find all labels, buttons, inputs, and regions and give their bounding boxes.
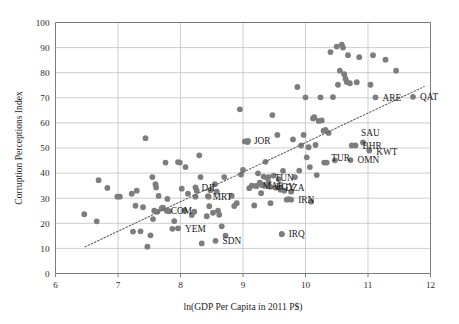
country-code-label: IRQ xyxy=(289,229,305,239)
scatter-point xyxy=(179,186,185,192)
scatter-point-labeled xyxy=(279,231,285,237)
scatter-point-labeled xyxy=(410,94,416,100)
x-tick-label: 12 xyxy=(426,280,436,290)
scatter-point xyxy=(368,82,374,88)
y-tick-label: 10 xyxy=(40,244,50,254)
trend-line-path xyxy=(85,87,424,247)
scatter-point xyxy=(210,210,216,216)
scatter-point xyxy=(133,203,139,209)
scatter-point xyxy=(81,211,87,217)
scatter-point xyxy=(318,94,324,100)
country-code-label: IRN xyxy=(298,195,314,205)
scatter-point xyxy=(251,203,257,209)
country-code-label: KWT xyxy=(376,147,397,157)
scatter-point xyxy=(269,112,275,118)
scatter-point xyxy=(314,172,320,178)
scatter-point xyxy=(185,191,191,197)
scatter-point xyxy=(274,132,280,138)
x-tick-label: 10 xyxy=(301,280,311,290)
scatter-point xyxy=(290,137,296,143)
scatter-point-labeled xyxy=(288,197,294,203)
scatter-plot-figure: 0102030405060708090100 6789101112 QATARE… xyxy=(0,0,459,324)
y-tick-label: 0 xyxy=(45,269,50,279)
scatter-point-labeled xyxy=(266,174,272,180)
x-tick-label: 7 xyxy=(116,280,121,290)
scatter-point xyxy=(206,203,212,209)
x-tick-label: 6 xyxy=(53,280,58,290)
scatter-point xyxy=(340,45,346,51)
y-tick-label: 40 xyxy=(40,168,50,178)
scatter-point xyxy=(296,168,302,174)
scatter-point xyxy=(335,82,341,88)
scatter-point xyxy=(191,209,197,215)
country-code-label: JOR xyxy=(254,136,271,146)
y-tick-label: 60 xyxy=(40,118,50,128)
chart-canvas: 0102030405060708090100 6789101112 QATARE… xyxy=(0,0,459,324)
trend-line xyxy=(85,87,424,247)
x-tick-label: 8 xyxy=(178,280,183,290)
scatter-point xyxy=(370,52,376,58)
scatter-point xyxy=(319,117,325,123)
y-tick-label: 80 xyxy=(40,68,50,78)
y-tick-label: 100 xyxy=(36,18,50,28)
scatter-point xyxy=(198,174,204,180)
x-tick-label: 11 xyxy=(364,280,373,290)
scatter-point xyxy=(330,94,336,100)
scatter-point xyxy=(138,228,144,234)
country-code-label: YEM xyxy=(185,224,206,234)
scatter-point-labeled xyxy=(254,183,260,189)
scatter-point xyxy=(307,164,313,170)
scatter-point xyxy=(347,80,353,86)
scatter-point xyxy=(234,200,240,206)
scatter-point xyxy=(303,94,309,100)
scatter-point xyxy=(221,174,227,180)
tick-marks xyxy=(56,274,431,278)
scatter-point xyxy=(255,170,261,176)
scatter-point-labeled xyxy=(213,238,219,244)
y-tick-label: 90 xyxy=(40,43,50,53)
scatter-point xyxy=(328,49,334,55)
country-code-label: DZA xyxy=(285,183,304,193)
country-code-label: MRT xyxy=(213,192,233,202)
scatter-point xyxy=(268,200,274,206)
country-code-label: OMN xyxy=(358,155,380,165)
scatter-point xyxy=(149,174,155,180)
country-code-label: QAT xyxy=(420,92,438,102)
y-tick-label: 70 xyxy=(40,93,50,103)
scatter-point xyxy=(219,223,225,229)
scatter-point xyxy=(345,52,351,58)
scatter-point xyxy=(117,194,123,200)
scatter-point xyxy=(140,204,146,210)
scatter-point xyxy=(216,212,222,218)
scatter-point xyxy=(313,142,319,148)
scatter-point xyxy=(199,240,205,246)
y-axis-tick-labels: 0102030405060708090100 xyxy=(36,18,50,279)
scatter-point xyxy=(153,185,159,191)
scatter-point xyxy=(148,232,154,238)
country-code-label: ARE xyxy=(383,93,402,103)
scatter-point xyxy=(150,216,156,222)
scatter-point xyxy=(304,154,310,160)
scatter-point xyxy=(196,152,202,158)
y-axis-title: Corruption Perceptions Index xyxy=(13,91,24,205)
scatter-point-labeled xyxy=(206,194,212,200)
scatter-point xyxy=(169,226,175,232)
scatter-point xyxy=(294,84,300,90)
scatter-point-labeled xyxy=(321,160,327,166)
scatter-point xyxy=(306,144,312,150)
y-tick-label: 50 xyxy=(40,143,50,153)
scatter-point xyxy=(163,160,169,166)
country-code-label: COM xyxy=(171,206,192,216)
scatter-point xyxy=(183,164,189,170)
scatter-point xyxy=(301,132,307,138)
scatter-point xyxy=(334,44,340,50)
x-axis-tick-labels: 6789101112 xyxy=(53,280,435,290)
y-tick-label: 20 xyxy=(40,219,50,229)
scatter-point xyxy=(354,79,360,85)
scatter-point-labeled xyxy=(373,94,379,100)
scatter-point xyxy=(311,114,317,120)
scatter-point xyxy=(393,68,399,74)
country-code-label: SAU xyxy=(361,128,380,138)
scatter-point-labeled xyxy=(353,143,359,149)
x-axis-title: ln(GDP Per Capita in 2011 P$) xyxy=(184,301,303,313)
